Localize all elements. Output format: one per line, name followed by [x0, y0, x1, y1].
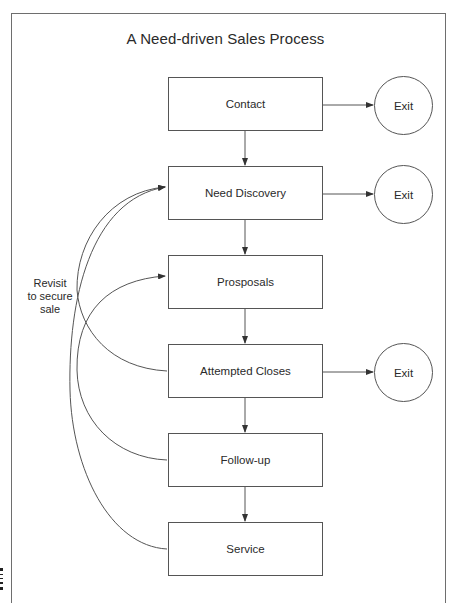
- revisit-line-3: sale: [22, 303, 78, 316]
- step-need-discovery: Need Discovery: [168, 166, 323, 220]
- curve-service-to-need-discovery: [70, 187, 167, 549]
- exit-node-need-discovery: Exit: [374, 165, 433, 224]
- step-service: Service: [168, 522, 323, 576]
- exit-node-contact: Exit: [374, 76, 433, 135]
- step-label: Follow-up: [221, 454, 271, 466]
- step-proposals: Prosposals: [168, 255, 323, 309]
- revisit-annotation: Revisit to secure sale: [22, 277, 78, 316]
- exit-arrows: [323, 105, 373, 372]
- step-label: Need Discovery: [205, 187, 286, 199]
- revisit-line-2: to secure: [22, 290, 78, 303]
- step-label: Prosposals: [217, 276, 274, 288]
- step-label: Attempted Closes: [200, 365, 291, 377]
- exit-label: Exit: [394, 100, 413, 112]
- exit-label: Exit: [394, 367, 413, 379]
- revisit-line-1: Revisit: [22, 277, 78, 290]
- step-label: Service: [226, 543, 264, 555]
- page-edge-marks: [0, 568, 4, 593]
- step-label: Contact: [226, 98, 266, 110]
- step-attempted-closes: Attempted Closes: [168, 344, 323, 398]
- curve-follow-up-to-proposals: [77, 276, 167, 460]
- exit-label: Exit: [394, 189, 413, 201]
- revisit-curves: [70, 187, 167, 549]
- curve-attempted-closes-to-need-discovery: [77, 187, 167, 371]
- step-follow-up: Follow-up: [168, 433, 323, 487]
- step-contact: Contact: [168, 77, 323, 131]
- exit-node-attempted-closes: Exit: [374, 343, 433, 402]
